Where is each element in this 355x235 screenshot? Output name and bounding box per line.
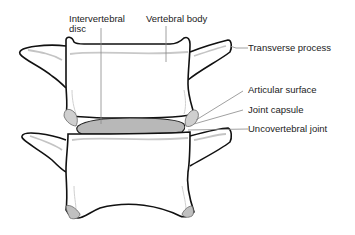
upper-right-transverse-process <box>188 40 231 80</box>
label-vertebral-body: Vertebral body <box>146 14 207 24</box>
label-articular-surface: Articular surface <box>248 85 317 95</box>
label-transverse-process: Transverse process <box>248 43 331 53</box>
label-intervertebral-disc: Intervertebral disc <box>69 14 125 34</box>
label-uncovertebral-joint: Uncovertebral joint <box>248 124 327 134</box>
upper-left-transverse-process <box>20 45 66 88</box>
upper-vertebral-body <box>66 37 194 118</box>
lower-right-transverse-process <box>190 128 231 166</box>
lower-vertebral-body <box>66 132 194 218</box>
intervertebral-disc <box>77 118 185 134</box>
label-joint-capsule: Joint capsule <box>248 105 303 115</box>
label-line-2: disc <box>69 24 125 34</box>
vertebrae-illustration <box>0 0 355 235</box>
lower-left-transverse-process <box>22 133 66 172</box>
